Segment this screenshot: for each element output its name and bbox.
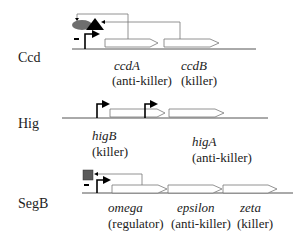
gene-role-higA: (anti-killer): [192, 151, 252, 165]
gene-name-ccdB: ccdB: [181, 59, 207, 73]
omega-repressor-square-icon: [83, 170, 93, 180]
gene-arrow-omega: [112, 185, 167, 193]
gene-arrow-epsilon: [168, 185, 222, 193]
gene-name-ccdA: ccdA: [114, 59, 140, 73]
segb-repression-mark: [84, 184, 89, 186]
gene-arrow-ccdB: [164, 39, 219, 47]
ccdB-feedback-line: [104, 22, 180, 39]
segb-operon: [82, 170, 293, 193]
operon-label-hig: Hig: [18, 117, 39, 131]
gene-arrow-higB: [110, 109, 165, 117]
gene-arrow-ccdA: [105, 39, 158, 47]
gene-name-higA: higA: [192, 135, 217, 149]
gene-name-higB: higB: [92, 129, 117, 143]
higB-promoter-icon: [97, 104, 102, 118]
omega-feedback-arrowhead-icon: [94, 172, 98, 176]
gene-arrow-zeta: [223, 185, 277, 193]
gene-name-zeta: zeta: [240, 201, 261, 215]
gene-role-ccdA: (anti-killer): [112, 74, 172, 88]
gene-role-ccdB: (killer): [181, 74, 217, 88]
ccd-promoter-icon: [85, 34, 92, 49]
hig-operon: [62, 100, 268, 118]
ccd-repression-mark: [74, 38, 79, 40]
gene-role-zeta: (killer): [237, 217, 273, 231]
gene-name-epsilon: epsilon: [177, 201, 215, 215]
higB-promoter-arrowhead-icon: [102, 100, 110, 108]
gene-arrow-higA: [169, 109, 224, 117]
segb-promoter-icon: [97, 180, 103, 193]
ccd-promoter-arrowhead-icon: [92, 30, 100, 38]
operon-label-segb: SegB: [18, 197, 48, 211]
operon-label-ccd: Ccd: [18, 51, 41, 65]
gene-role-higB: (killer): [92, 145, 128, 159]
ccdB-feedback-arrowhead-icon: [101, 20, 105, 24]
segb-promoter-arrowhead-icon: [103, 176, 111, 184]
ccd-operon: [72, 14, 256, 49]
gene-role-omega: (regulator): [108, 217, 164, 231]
higA-promoter-arrowhead-icon: [150, 100, 158, 108]
gene-role-epsilon: (anti-killer): [171, 217, 231, 231]
gene-name-omega: omega: [108, 201, 143, 215]
